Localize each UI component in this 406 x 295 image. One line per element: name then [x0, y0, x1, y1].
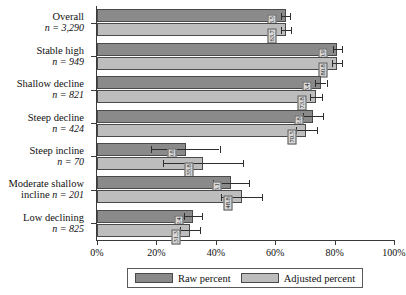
x-axis-tick: [394, 240, 395, 245]
error-bar-cap-low: [332, 60, 333, 67]
error-bar-cap-low: [281, 27, 282, 34]
error-bar-line: [296, 130, 317, 131]
error-bar-line: [303, 116, 323, 117]
x-axis-tick: [97, 240, 98, 245]
legend-entry: Adjusted percent: [241, 273, 355, 284]
error-bar-cap-low: [151, 146, 152, 153]
legend-swatch-raw: [135, 273, 173, 283]
error-bar-cap-high: [290, 13, 291, 20]
error-bar-cap-low: [333, 46, 334, 53]
x-axis-tick: [216, 240, 217, 245]
error-bar-cap-high: [249, 180, 250, 187]
category-label-count: n = 424: [52, 123, 84, 134]
error-bar-line: [315, 83, 326, 84]
bar-value-label: 73.8: [298, 95, 307, 110]
category-axis-labels: Overalln = 3,290Stable highn = 949Shallo…: [0, 6, 88, 240]
error-bar-line: [310, 97, 322, 98]
x-axis-tick-label: 40%: [207, 247, 225, 258]
category-label: Moderate shallow incline n = 201: [0, 178, 84, 201]
category-label: Steep declinen = 424: [0, 112, 84, 135]
error-bar-cap-high: [342, 46, 343, 53]
legend-label: Raw percent: [178, 273, 231, 284]
error-bar-line: [332, 63, 342, 64]
x-axis-tick-label: 100%: [382, 247, 405, 258]
error-bar-line: [151, 149, 219, 150]
error-bar-line: [281, 30, 291, 31]
bar-raw: [97, 110, 313, 123]
error-bar-cap-high: [291, 27, 292, 34]
bar-adjusted: [97, 23, 286, 36]
category-label-name: Low declining: [23, 212, 84, 223]
error-bar-cap-high: [322, 94, 323, 101]
error-bar-cap-high: [243, 160, 244, 167]
bar-raw: [97, 43, 337, 56]
error-bar-line: [163, 163, 243, 164]
category-label: Low decliningn = 825: [0, 212, 84, 235]
bar-value-label: 31.3: [172, 229, 181, 244]
bar-adjusted: [97, 90, 316, 103]
error-bar-cap-low: [310, 94, 311, 101]
x-axis-tick-label: 0%: [90, 247, 103, 258]
error-bar-cap-low: [315, 80, 316, 87]
x-axis-tick: [335, 240, 336, 245]
x-axis-tick-label: 80%: [325, 247, 343, 258]
error-bar-cap-high: [323, 113, 324, 120]
bar-raw: [97, 76, 321, 89]
error-bar-line: [333, 49, 342, 50]
bar-value-label: 48.8: [224, 195, 233, 210]
category-label-name: Overall: [53, 11, 85, 22]
category-label-count: n = 3,290: [45, 22, 84, 33]
category-label: Stable highn = 949: [0, 45, 84, 68]
x-axis-tick-label: 60%: [266, 247, 284, 258]
legend-swatch-adjusted: [241, 273, 279, 283]
error-bar-cap-low: [180, 227, 181, 234]
error-bar-cap-high: [220, 146, 221, 153]
bar-adjusted: [97, 57, 337, 70]
error-bar-line: [180, 230, 200, 231]
bar-raw: [97, 176, 231, 189]
category-label-name: Steep incline: [29, 145, 84, 156]
error-bar-cap-low: [296, 127, 297, 134]
error-bar-line: [184, 216, 202, 217]
x-axis-line: [96, 240, 395, 241]
bar-raw: [97, 9, 286, 22]
category-label: Steep inclinen = 70: [0, 145, 84, 168]
x-axis-tick: [156, 240, 157, 245]
error-bar-cap-high: [202, 213, 203, 220]
error-bar-cap-low: [303, 113, 304, 120]
error-bar-line: [281, 16, 290, 17]
category-label-name: Stable high: [36, 45, 84, 56]
error-bar-cap-high: [262, 194, 263, 201]
error-bar-cap-high: [327, 80, 328, 87]
error-bar-cap-high: [342, 60, 343, 67]
error-bar-cap-low: [281, 13, 282, 20]
category-label: Shallow declinen = 821: [0, 78, 84, 101]
category-label-count: n = 949: [52, 56, 84, 67]
error-bar-cap-high: [317, 127, 318, 134]
category-label-name: Steep decline: [28, 112, 84, 123]
category-label-count: n = 825: [52, 223, 84, 234]
bar-value-label: 70.5: [288, 129, 297, 144]
category-label: Overalln = 3,290: [0, 11, 84, 34]
x-axis-tick-label: 20%: [147, 247, 165, 258]
legend-label: Adjusted percent: [284, 273, 355, 284]
x-axis-tick: [275, 240, 276, 245]
category-label-count: n = 70: [57, 156, 84, 167]
error-bar-cap-low: [163, 160, 164, 167]
legend-entry: Raw percent: [135, 273, 231, 284]
bar-adjusted: [97, 124, 306, 137]
chart-legend: Raw percentAdjusted percent: [127, 268, 363, 288]
bar-value-label: 63.7: [268, 28, 277, 43]
category-label-name: Shallow decline: [17, 78, 84, 89]
error-bar-cap-low: [221, 194, 222, 201]
error-bar-cap-high: [200, 227, 201, 234]
category-label-count: n = 821: [52, 89, 84, 100]
error-bar-cap-low: [184, 213, 185, 220]
category-label-count: n = 201: [52, 189, 84, 200]
plot-area: 0%20%40%60%80%100%63.563.780.980.875.473…: [97, 6, 394, 240]
